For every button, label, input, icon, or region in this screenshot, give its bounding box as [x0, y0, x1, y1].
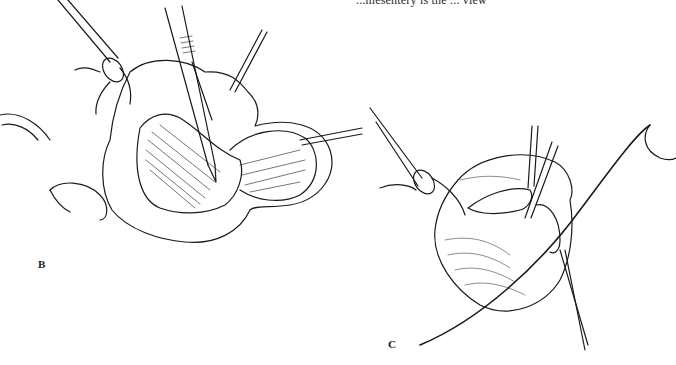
figure-c-label: C — [388, 338, 396, 350]
figure-c-illustration: C — [360, 90, 676, 365]
figure-c-drawing — [360, 90, 676, 365]
figure-b-label: B — [38, 258, 45, 270]
clipped-caption-text: ...mesentery is the ... view — [356, 0, 487, 8]
figure-b-drawing — [0, 0, 370, 265]
figure-b-illustration: B — [0, 0, 370, 265]
